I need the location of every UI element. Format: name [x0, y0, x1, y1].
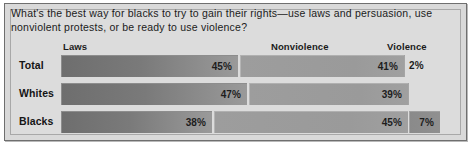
bar-value-nonviolence-whites: 39%	[382, 89, 402, 100]
bar-value-nonviolence-total: 41%	[378, 61, 398, 72]
bar-segment-violence-whites	[408, 83, 409, 105]
column-header-laws: Laws	[63, 41, 87, 52]
column-header-nonviolence: Nonviolence	[271, 41, 329, 52]
table-row: Total 45% 41% 2%	[0, 55, 471, 77]
bar-segment-laws-total: 45%	[61, 55, 238, 77]
row-label-whites: Whites	[19, 87, 57, 99]
bar-value-laws-total: 45%	[212, 61, 232, 72]
row-label-blacks: Blacks	[19, 115, 57, 127]
bar-value-nonviolence-blacks: 45%	[382, 117, 402, 128]
bar-segment-violence-total	[404, 55, 405, 77]
row-label-total: Total	[19, 59, 57, 71]
bar-segment-violence-blacks: 7%	[409, 111, 440, 133]
question-text: What's the best way for blacks to try to…	[11, 7, 441, 34]
bar-value-violence-blacks: 7%	[419, 117, 434, 128]
table-row: Blacks 38% 45% 7%	[0, 111, 471, 133]
table-row: Whites 47% 39%	[0, 83, 471, 105]
poll-result-figure: What's the best way for blacks to try to…	[0, 0, 471, 146]
bar-segment-laws-whites: 47%	[61, 83, 247, 105]
bar-value-laws-blacks: 38%	[186, 117, 206, 128]
bar-segment-laws-blacks: 38%	[61, 111, 212, 133]
bar-segment-nonviolence-blacks: 45%	[214, 111, 408, 133]
bar-segment-nonviolence-total: 41%	[240, 55, 404, 77]
column-header-violence: Violence	[387, 41, 427, 52]
bar-segment-nonviolence-whites: 39%	[249, 83, 408, 105]
bar-value-laws-whites: 47%	[221, 89, 241, 100]
